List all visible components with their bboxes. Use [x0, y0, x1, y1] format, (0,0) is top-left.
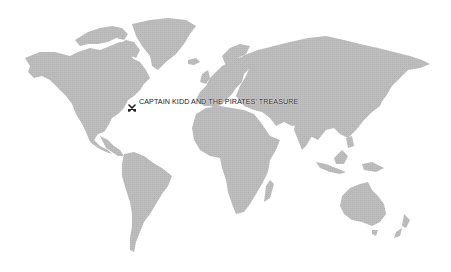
new-guinea	[362, 162, 384, 172]
greenland	[132, 18, 196, 70]
asia	[236, 36, 430, 140]
tasmania	[372, 230, 378, 236]
map-marker[interactable]: CAPTAIN KIDD AND THE PIRATES' TREASURE	[128, 97, 298, 106]
central-america	[100, 136, 124, 156]
world-map	[0, 0, 451, 272]
australia	[340, 182, 386, 226]
new-zealand	[394, 214, 410, 238]
marker-label[interactable]: CAPTAIN KIDD AND THE PIRATES' TREASURE	[139, 97, 298, 106]
iceland	[188, 58, 200, 65]
crossed-swords-icon	[128, 98, 136, 106]
madagascar	[264, 180, 274, 202]
south-america	[122, 152, 172, 252]
borneo	[334, 150, 348, 164]
philippines	[346, 136, 354, 148]
